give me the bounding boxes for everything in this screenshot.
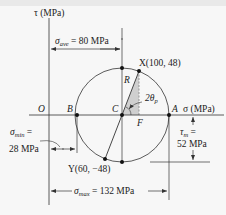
point-c-label: C xyxy=(112,104,119,114)
tau-axis-label: τ (MPa) xyxy=(34,8,64,19)
point-x xyxy=(137,69,141,73)
sigma-min-leader xyxy=(40,141,60,147)
tau-m-label: τm = xyxy=(180,127,196,138)
sigma-min-label: σmin = xyxy=(10,127,32,138)
sigma-min-value: 28 MPa xyxy=(9,144,40,154)
mohrs-circle-diagram: τ (MPa) O B C A σ (MPa) F R X(100, 48) Y… xyxy=(0,0,226,215)
point-b-label: B xyxy=(67,104,73,114)
sigma-axis-label: σ (MPa) xyxy=(183,104,215,115)
point-y-label: Y(60, −48) xyxy=(68,164,110,175)
point-a xyxy=(167,113,171,117)
origin-label: O xyxy=(38,104,45,114)
tau-m-value: 52 MPa xyxy=(177,139,208,149)
radius-label: R xyxy=(123,75,130,85)
point-top xyxy=(120,66,124,70)
point-x-label: X(100, 48) xyxy=(139,58,181,69)
angle-label: 2θp xyxy=(145,93,158,104)
point-b xyxy=(75,113,79,117)
point-a-label: A xyxy=(171,104,178,114)
point-y xyxy=(103,157,107,161)
point-bottom xyxy=(120,160,124,164)
point-c xyxy=(120,113,124,117)
sigma-max-label: σmax = 132 MPa xyxy=(74,186,135,197)
sigma-ave-label: σave = 80 MPa xyxy=(55,36,109,47)
point-f-label: F xyxy=(136,118,143,128)
